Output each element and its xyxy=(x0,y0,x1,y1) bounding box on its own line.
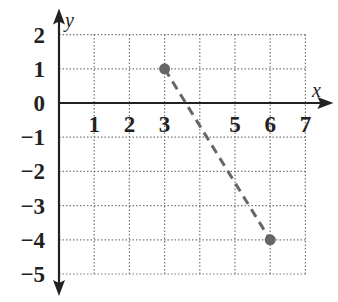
dashed-segment xyxy=(165,69,271,240)
axes xyxy=(53,9,333,296)
x-tick-label: 3 xyxy=(159,112,171,137)
coordinate-plane: 123567210−1−2−3−4−5 x y xyxy=(0,0,338,302)
y-tick-label: 1 xyxy=(34,57,46,82)
x-tick-label: 1 xyxy=(88,112,100,137)
tick-labels: 123567210−1−2−3−4−5 xyxy=(20,23,311,287)
y-tick-label: −5 xyxy=(20,262,45,287)
data-series xyxy=(159,63,276,245)
x-tick-label: 6 xyxy=(264,112,276,137)
x-tick-label: 5 xyxy=(229,112,241,137)
x-axis-label: x xyxy=(311,79,321,101)
y-tick-label: −1 xyxy=(20,125,45,150)
data-point xyxy=(159,63,170,74)
x-tick-label: 7 xyxy=(300,112,312,137)
x-tick-label: 2 xyxy=(124,112,136,137)
y-tick-label: −3 xyxy=(20,194,45,219)
data-point xyxy=(265,234,276,245)
y-tick-label: −2 xyxy=(20,159,45,184)
y-tick-label: 0 xyxy=(34,91,46,116)
y-axis-label: y xyxy=(63,9,74,32)
y-tick-label: −4 xyxy=(20,228,45,253)
y-tick-label: 2 xyxy=(34,23,46,48)
